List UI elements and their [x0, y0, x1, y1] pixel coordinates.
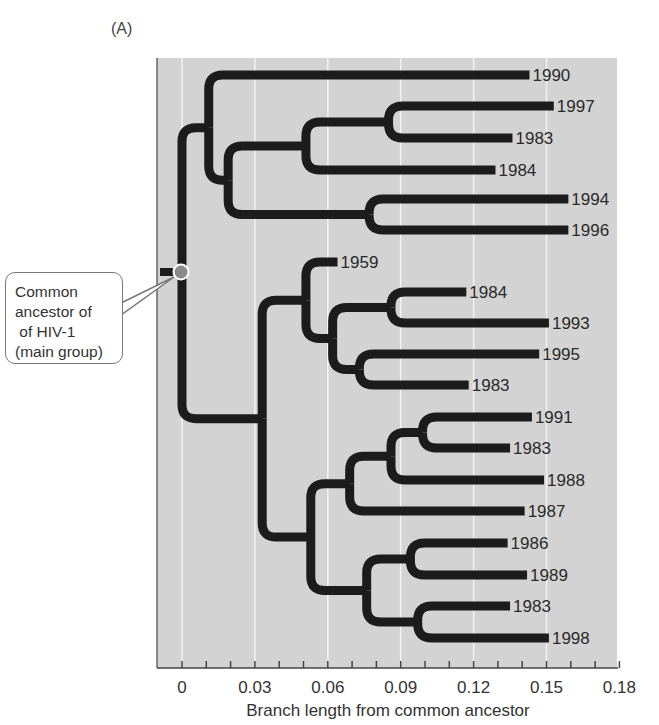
tip-label: 1984 [469, 283, 507, 302]
callout-line: ancestor of [15, 302, 116, 322]
tip-label: 1983 [513, 439, 551, 458]
tip-label: 1986 [511, 534, 549, 553]
tip-label: 1990 [532, 66, 570, 85]
x-tick-label: 0.09 [384, 678, 417, 697]
callout-common-ancestor: Common ancestor of of HIV-1 (main group) [5, 272, 123, 364]
tip-label: 1991 [535, 408, 573, 427]
callout-line: (main group) [15, 342, 116, 362]
x-tick-label: 0.18 [603, 678, 636, 697]
tip-label: 1984 [498, 161, 536, 180]
tip-label: 1983 [513, 597, 551, 616]
tip-label: 1983 [472, 376, 510, 395]
tip-label: 1998 [552, 629, 590, 648]
x-axis-title: Branch length from common ancestor [246, 701, 530, 720]
tip-label: 1996 [571, 221, 609, 240]
tip-label: 1988 [547, 471, 585, 490]
root-stub [160, 268, 173, 276]
tip-label: 1994 [571, 190, 609, 209]
tip-label: 1987 [528, 502, 566, 521]
tip-label: 1959 [341, 253, 379, 272]
callout-line: Common [15, 282, 116, 302]
x-tick-label: 0 [177, 678, 186, 697]
tip-label: 1997 [557, 97, 595, 116]
root-node-marker [174, 265, 189, 280]
x-tick-label: 0.12 [457, 678, 490, 697]
x-tick-label: 0.03 [238, 678, 271, 697]
tip-label: 1995 [542, 345, 580, 364]
tip-label: 1989 [530, 566, 568, 585]
tip-label: 1983 [515, 129, 553, 148]
x-axis-tick-labels: 00.030.060.090.120.150.18 [177, 678, 636, 697]
x-tick-label: 0.06 [311, 678, 344, 697]
callout-line: of HIV-1 [15, 322, 116, 342]
x-tick-label: 0.15 [530, 678, 563, 697]
tip-label: 1993 [552, 314, 590, 333]
